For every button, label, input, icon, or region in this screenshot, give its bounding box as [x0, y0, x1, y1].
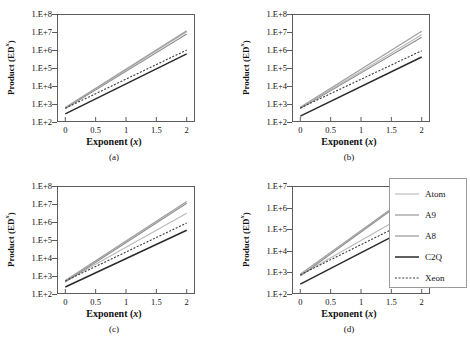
series-canvas [58, 15, 194, 121]
legend-item-atom[interactable]: Atom [390, 183, 466, 204]
y-tick-label: 1.E+6 [31, 46, 52, 55]
y-tick-label: 1.E+6 [266, 203, 287, 212]
y-tick-label: 1.E+5 [266, 225, 287, 234]
y-tick-mark [287, 294, 292, 295]
y-tick-labels: 1.E+21.E+31.E+41.E+51.E+61.E+71.E+8 [15, 12, 55, 124]
series-line-xeon [65, 223, 186, 281]
x-tick-label: 0.5 [90, 125, 101, 135]
x-tick-label: 1 [359, 125, 363, 135]
x-tick-label: 1.5 [151, 125, 162, 135]
y-tick-label: 1.E+5 [266, 64, 287, 73]
series-line-a9 [65, 203, 186, 282]
legend-item-xeon[interactable]: Xeon [390, 267, 466, 288]
series-line-a9 [65, 34, 186, 109]
x-tick-label: 0.5 [90, 297, 101, 307]
series-line-atom [65, 213, 186, 281]
panel-caption-b: (b) [235, 152, 463, 162]
y-tick-label: 1.E+7 [266, 28, 287, 37]
plot-area [57, 186, 195, 294]
legend-item-c2q[interactable]: C2Q [390, 246, 466, 267]
x-tick-label: 1.5 [386, 297, 397, 307]
x-tick-label: 0.5 [325, 125, 336, 135]
y-axis-label: Product (EDx) [237, 16, 251, 120]
legend-item-a9[interactable]: A9 [390, 204, 466, 225]
y-tick-label: 1.E+7 [31, 28, 52, 37]
panel-caption-d: (d) [235, 324, 463, 334]
y-tick-label: 1.E+8 [31, 10, 52, 19]
legend-swatch-xeon [394, 274, 420, 282]
panel-caption-a: (a) [0, 152, 228, 162]
x-tick-label: 1.5 [386, 125, 397, 135]
x-tick-label: 2 [185, 125, 189, 135]
y-tick-mark [52, 294, 57, 295]
y-axis-label: Product (EDx) [237, 188, 251, 292]
y-tick-mark [287, 122, 292, 123]
series-canvas [58, 187, 194, 293]
x-tick-label: 1 [124, 125, 128, 135]
legend-label-a8: A8 [420, 231, 436, 241]
y-tick-label: 1.E+7 [31, 200, 52, 209]
y-tick-mark [52, 122, 57, 123]
series-line-c2q [300, 57, 421, 116]
x-tick-label: 1 [359, 297, 363, 307]
legend: AtomA9A8C2QXeon [389, 178, 467, 288]
x-tick-label: 0 [63, 297, 67, 307]
x-tick-label: 1 [124, 297, 128, 307]
y-axis-label: Product (EDx) [2, 16, 16, 120]
y-tick-label: 1.E+5 [31, 64, 52, 73]
series-line-a8 [65, 201, 186, 280]
legend-item-a8[interactable]: A8 [390, 225, 466, 246]
x-tick-label: 2 [420, 297, 424, 307]
y-tick-labels: 1.E+21.E+31.E+41.E+51.E+61.E+71.E+8 [15, 184, 55, 296]
series-line-atom [300, 35, 421, 108]
legend-swatch-a9 [394, 211, 420, 219]
y-tick-label: 1.E+4 [266, 247, 287, 256]
y-tick-label: 1.E+3 [266, 100, 287, 109]
chart-panel-c: Product (EDx)1.E+21.E+31.E+41.E+51.E+61.… [0, 172, 228, 344]
series-line-a8 [65, 31, 186, 108]
plot-area [292, 14, 430, 122]
series-canvas [293, 15, 429, 121]
series-line-xeon [300, 51, 421, 108]
y-tick-label: 1.E+6 [31, 218, 52, 227]
x-tick-label: 0 [63, 125, 67, 135]
legend-label-atom: Atom [420, 189, 446, 199]
y-tick-label: 1.E+8 [31, 182, 52, 191]
x-axis-label: Exponent (x) [0, 308, 228, 319]
legend-swatch-c2q [394, 253, 420, 261]
series-line-a9 [300, 37, 421, 108]
series-line-xeon [65, 50, 186, 108]
chart-panel-b: Product (EDx)1.E+21.E+31.E+41.E+51.E+61.… [235, 0, 463, 172]
series-line-c2q [65, 54, 186, 114]
y-tick-label: 1.E+4 [266, 82, 287, 91]
y-tick-label: 1.E+5 [31, 236, 52, 245]
series-line-a8 [300, 31, 421, 107]
x-tick-label: 2 [420, 125, 424, 135]
x-axis-label: Exponent (x) [0, 136, 228, 147]
figure-container: Product (EDx)1.E+21.E+31.E+41.E+51.E+61.… [0, 0, 470, 347]
y-tick-label: 1.E+6 [266, 46, 287, 55]
legend-label-a9: A9 [420, 210, 436, 220]
x-tick-label: 1.5 [151, 297, 162, 307]
y-tick-labels: 1.E+21.E+31.E+41.E+51.E+61.E+71.E+8 [250, 12, 290, 124]
y-tick-label: 1.E+8 [266, 10, 287, 19]
chart-panel-a: Product (EDx)1.E+21.E+31.E+41.E+51.E+61.… [0, 0, 228, 172]
x-axis-label: Exponent (x) [235, 136, 463, 147]
legend-swatch-atom [394, 190, 420, 198]
x-tick-label: 0 [298, 125, 302, 135]
plot-area [57, 14, 195, 122]
legend-swatch-a8 [394, 232, 420, 240]
y-tick-label: 1.E+7 [266, 182, 287, 191]
y-tick-label: 1.E+3 [31, 272, 52, 281]
x-tick-label: 0 [298, 297, 302, 307]
y-tick-label: 1.E+3 [266, 268, 287, 277]
x-tick-label: 2 [185, 297, 189, 307]
y-tick-label: 1.E+3 [31, 100, 52, 109]
series-line-c2q [65, 230, 186, 287]
x-axis-label: Exponent (x) [235, 308, 463, 319]
legend-label-xeon: Xeon [420, 273, 445, 283]
y-tick-labels: 1.E+21.E+31.E+41.E+51.E+61.E+7 [250, 184, 290, 296]
panel-caption-c: (c) [0, 324, 228, 334]
y-axis-label: Product (EDx) [2, 188, 16, 292]
y-tick-label: 1.E+4 [31, 254, 52, 263]
